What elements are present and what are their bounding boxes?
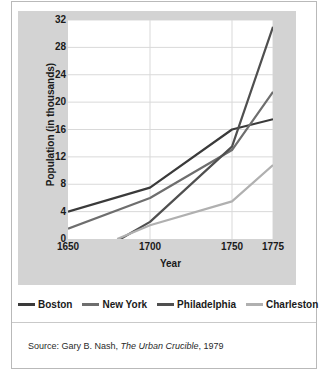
source-prefix: Source: Gary B. Nash, bbox=[28, 341, 121, 351]
chart-panel: 32 28 24 20 16 12 8 4 0 1650 1700 1750 1… bbox=[18, 11, 296, 285]
x-tick-1775: 1775 bbox=[262, 241, 284, 253]
legend-swatch-icon bbox=[18, 303, 35, 306]
chart-svg bbox=[68, 20, 273, 239]
gridlines bbox=[68, 20, 273, 239]
x-tick-1700: 1700 bbox=[139, 241, 161, 253]
plot-area bbox=[68, 20, 273, 239]
source-title: The Urban Crucible bbox=[121, 341, 199, 351]
x-tick-1750: 1750 bbox=[221, 241, 243, 253]
legend-label: Boston bbox=[38, 299, 72, 310]
legend-item-philadelphia[interactable]: Philadelphia bbox=[157, 299, 236, 310]
x-axis-title: Year bbox=[68, 258, 273, 269]
source-suffix: , 1979 bbox=[199, 341, 224, 351]
legend-label: New York bbox=[102, 299, 147, 310]
series-lines bbox=[68, 27, 273, 239]
legend-label: Charleston bbox=[266, 299, 318, 310]
legend-item-new-york[interactable]: New York bbox=[82, 299, 147, 310]
chart-legend: BostonNew YorkPhiladelphiaCharleston bbox=[18, 295, 314, 313]
x-tick-1650: 1650 bbox=[57, 241, 79, 253]
y-axis-title: Population (in thousands) bbox=[45, 40, 56, 210]
figure-container: 32 28 24 20 16 12 8 4 0 1650 1700 1750 1… bbox=[0, 0, 330, 376]
legend-divider bbox=[12, 322, 316, 323]
source-citation: Source: Gary B. Nash, The Urban Crucible… bbox=[28, 341, 224, 351]
series-line-philadelphia bbox=[120, 27, 273, 239]
legend-swatch-icon bbox=[82, 303, 99, 306]
legend-swatch-icon bbox=[246, 303, 263, 306]
legend-item-charleston[interactable]: Charleston bbox=[246, 299, 318, 310]
series-line-new-york bbox=[68, 92, 273, 229]
legend-swatch-icon bbox=[157, 303, 174, 306]
legend-label: Philadelphia bbox=[177, 299, 236, 310]
legend-item-boston[interactable]: Boston bbox=[18, 299, 72, 310]
x-axis-ticks: 1650 1700 1750 1775 bbox=[68, 241, 273, 257]
series-line-boston bbox=[68, 119, 273, 211]
y-tick-32: 32 bbox=[40, 15, 66, 25]
